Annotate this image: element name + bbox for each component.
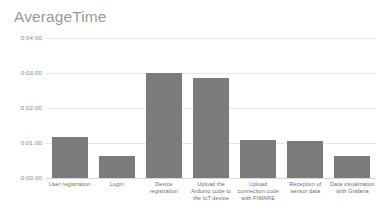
x-axis-tick-label: Data visualization with Grafana [330, 181, 375, 195]
axis-baseline [46, 178, 376, 179]
x-axis-tick-label: Device registration [141, 181, 186, 195]
y-axis-tick-label: 0:03:00 [0, 69, 42, 76]
bar[interactable] [334, 156, 370, 178]
chart-container: AverageTime 0:04:000:03:000:02:000:01:00… [0, 0, 382, 221]
bar[interactable] [287, 141, 323, 178]
chart-title: AverageTime [14, 8, 106, 26]
bar[interactable] [99, 156, 135, 178]
plot-area [46, 38, 376, 178]
bar[interactable] [240, 140, 276, 178]
x-axis-tick-label: Upload the Arduino code to the IoT devic… [188, 181, 233, 203]
y-axis-tick-label: 0:01:00 [0, 139, 42, 146]
x-axis-tick-label: Login [94, 181, 139, 188]
x-axis-tick-label: Reception of sensor data [283, 181, 328, 195]
x-axis-tick-label: Upload connection code with FIWARE [236, 181, 281, 203]
y-axis-tick-label: 0:04:00 [0, 34, 42, 41]
bar[interactable] [52, 137, 88, 178]
y-axis-tick-label: 0:02:00 [0, 104, 42, 111]
bar[interactable] [193, 78, 229, 178]
bar[interactable] [146, 73, 182, 178]
x-axis-tick-label: User registration [47, 181, 92, 188]
y-axis-tick-label: 0:00:00 [0, 174, 42, 181]
gridline [46, 38, 376, 39]
gridline [46, 73, 376, 74]
